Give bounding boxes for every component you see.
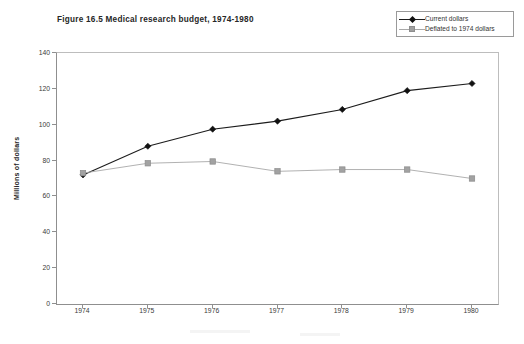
x-axis-tick-label: 1974	[74, 307, 89, 314]
scan-artifact	[300, 333, 340, 336]
plot-area	[56, 52, 499, 305]
data-point-marker	[404, 88, 410, 94]
data-point-marker	[469, 80, 475, 86]
chart-title: Figure 16.5 Medical research budget, 197…	[57, 15, 254, 24]
data-point-marker	[145, 161, 150, 166]
x-axis-tick-label: 1977	[269, 307, 284, 314]
data-point-marker	[275, 169, 280, 174]
data-point-marker	[339, 106, 345, 112]
y-axis-tick-label: 0	[46, 300, 50, 307]
y-axis-tick-label: 40	[42, 228, 50, 235]
y-axis-tick-labels: 020406080100120140	[28, 52, 50, 303]
series-line	[83, 83, 472, 174]
legend-label-deflated-dollars: Deflated to 1974 dollars	[425, 24, 495, 34]
legend-key-deflated-dollars-icon	[399, 24, 425, 34]
x-axis-tick-label: 1980	[463, 307, 478, 314]
x-axis-tick-label: 1975	[139, 307, 154, 314]
legend-key-current-dollars-icon	[399, 14, 425, 24]
data-point-marker	[274, 118, 280, 124]
plot-svg	[57, 53, 498, 304]
data-point-marker	[404, 167, 409, 172]
y-axis-tick-label: 140	[39, 49, 50, 56]
legend-entry-deflated-dollars: Deflated to 1974 dollars	[399, 24, 510, 34]
y-axis-tick-label: 120	[39, 84, 50, 91]
figure-container: Figure 16.5 Medical research budget, 197…	[0, 0, 524, 344]
y-axis-tick-label: 80	[42, 156, 50, 163]
series-deflated-dollars	[80, 159, 474, 181]
y-axis-tick-label: 20	[42, 264, 50, 271]
legend-entry-current-dollars: Current dollars	[399, 14, 510, 24]
x-axis-tick-labels: 1974197519761977197819791980	[56, 307, 497, 321]
data-point-marker	[80, 170, 85, 175]
chart-legend: Current dollars Deflated to 1974 dollars	[396, 11, 514, 37]
x-axis-tick-label: 1976	[204, 307, 219, 314]
y-axis-title: Millions of dollars	[13, 137, 20, 200]
data-point-marker	[469, 176, 474, 181]
data-point-marker	[145, 143, 151, 149]
x-axis-tick-label: 1979	[399, 307, 414, 314]
y-axis-tick-label: 100	[39, 120, 50, 127]
series-current-dollars	[80, 80, 475, 178]
y-axis-tick-label: 60	[42, 192, 50, 199]
scan-artifact	[190, 330, 250, 333]
data-point-marker	[210, 126, 216, 132]
x-axis-tick-label: 1978	[334, 307, 349, 314]
data-point-marker	[340, 167, 345, 172]
data-point-marker	[210, 159, 215, 164]
legend-label-current-dollars: Current dollars	[425, 14, 468, 24]
